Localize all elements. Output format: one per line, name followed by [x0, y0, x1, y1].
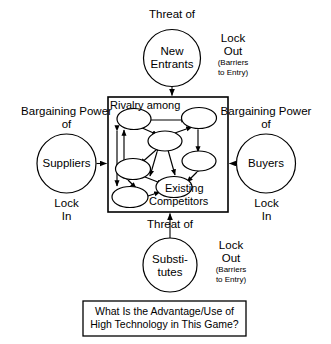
lock-out-bottom-line1: Lock: [204, 239, 258, 252]
existing-competitors-line2: Competitors: [149, 195, 229, 207]
lock-out-bottom-note2: to Entry): [203, 276, 259, 285]
lock-out-top-note2: to Entry): [205, 69, 261, 78]
existing-competitors-line1: Existing: [165, 182, 227, 194]
suppliers-lock-line1: Lock: [39, 197, 94, 210]
lock-out-top-line1: Lock: [206, 32, 260, 45]
buyers-power-line2: of: [205, 118, 327, 131]
new-entrants-threat-label: Threat of: [128, 8, 216, 21]
suppliers-power-line1: Bargaining Power: [6, 105, 127, 118]
substitutes-label-line2: tutes: [140, 266, 200, 279]
buyers-lock-line1: Lock: [239, 197, 294, 210]
rivalry-among-label: Rivalry among: [110, 99, 202, 111]
buyers-power-line1: Bargaining Power: [205, 105, 327, 118]
lock-out-bottom-line2: Out: [204, 252, 258, 265]
rivalry-node-4: [116, 159, 151, 180]
substitutes-threat-label: Threat of: [126, 218, 214, 231]
suppliers-label: Suppliers: [30, 157, 103, 170]
lock-out-top-line2: Out: [206, 45, 260, 58]
caption-line1: What Is the Advantage/Use of: [85, 306, 244, 318]
rivalry-node-5: [182, 151, 216, 171]
buyers-lock-line2: In: [239, 210, 294, 223]
lock-out-bottom-note1: (Barriers: [203, 266, 259, 275]
new-entrants-label-line1: New: [142, 45, 202, 58]
five-forces-diagram: Threat of New Entrants Lock Out (Barrier…: [0, 0, 331, 344]
new-entrants-label-line2: Entrants: [138, 58, 206, 71]
suppliers-lock-line2: In: [39, 210, 94, 223]
rivalry-node-7: [112, 187, 148, 208]
caption-line2: High Technology in This Game?: [85, 319, 244, 331]
suppliers-power-line2: of: [6, 118, 127, 131]
lock-out-top-note1: (Barriers: [205, 59, 261, 68]
buyers-label: Buyers: [237, 157, 295, 170]
rivalry-node-3: [148, 131, 182, 151]
substitutes-label-line1: Substi-: [140, 253, 200, 266]
